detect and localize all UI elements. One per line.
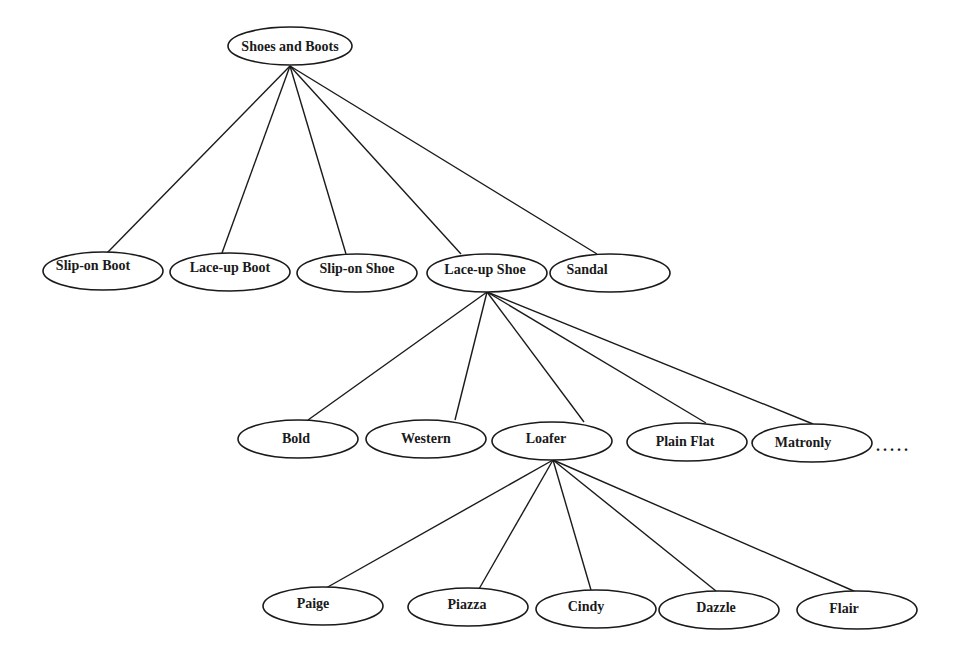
- edge-root-to-sandal: [290, 66, 597, 254]
- node-label: Dazzle: [696, 600, 736, 615]
- node-label: Sandal: [566, 262, 607, 277]
- node-cindy: Cindy: [536, 590, 656, 628]
- edge-root-to-lace-up-shoe: [290, 66, 461, 254]
- edge-loafer-to-dazzle: [553, 460, 716, 591]
- node-lace-up-boot: Lace-up Boot: [170, 253, 290, 291]
- edge-root-to-lace-up-boot: [222, 66, 290, 253]
- node-label: Piazza: [448, 597, 487, 612]
- node-label: Matronly: [775, 435, 832, 450]
- edge-loafer-to-cindy: [553, 460, 591, 590]
- node-root: Shoes and Boots: [228, 27, 352, 65]
- node-loafer: Loafer: [492, 422, 612, 460]
- edge-loafer-to-piazza: [479, 460, 553, 589]
- edge-lace-up-shoe-to-plain-flat: [487, 292, 706, 423]
- edge-loafer-to-flair: [553, 460, 856, 592]
- node-label: Bold: [282, 431, 310, 446]
- node-lace-up-shoe: Lace-up Shoe: [427, 254, 547, 292]
- node-label: Slip-on Boot: [56, 258, 131, 273]
- node-plain-flat: Plain Flat: [627, 423, 747, 461]
- node-label: Plain Flat: [656, 434, 715, 449]
- edge-root-to-slip-on-shoe: [290, 66, 346, 254]
- edges-layer: [107, 66, 856, 592]
- tree-diagram: Shoes and BootsSlip-on BootLace-up BootS…: [0, 0, 957, 659]
- node-label: Slip-on Shoe: [319, 261, 394, 276]
- node-label: Western: [401, 431, 451, 446]
- node-dazzle: Dazzle: [659, 591, 779, 629]
- node-label: Lace-up Boot: [190, 260, 271, 275]
- node-sandal: Sandal: [550, 254, 670, 292]
- node-matronly: Matronly: [752, 424, 872, 462]
- node-slip-on-boot: Slip-on Boot: [43, 252, 163, 290]
- continuation-ellipsis: .....: [876, 437, 911, 454]
- node-flair: Flair: [797, 591, 917, 629]
- node-bold: Bold: [238, 420, 358, 458]
- node-paige: Paige: [263, 587, 383, 625]
- node-label: Lace-up Shoe: [444, 262, 525, 277]
- nodes-layer: Shoes and BootsSlip-on BootLace-up BootS…: [43, 27, 917, 629]
- node-label: Cindy: [568, 599, 605, 614]
- node-label: Shoes and Boots: [241, 39, 339, 54]
- node-western: Western: [366, 420, 486, 458]
- edge-loafer-to-paige: [326, 460, 553, 588]
- node-label: Paige: [297, 596, 330, 611]
- edge-root-to-slip-on-boot: [107, 66, 290, 253]
- node-piazza: Piazza: [408, 588, 528, 626]
- node-label: Loafer: [526, 431, 566, 446]
- node-label: Flair: [829, 601, 859, 616]
- node-slip-on-shoe: Slip-on Shoe: [297, 254, 417, 292]
